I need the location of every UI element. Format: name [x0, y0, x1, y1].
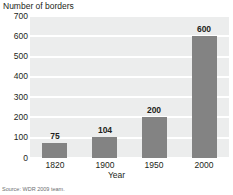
y-axis-tick-label: 600	[2, 32, 28, 41]
bar-value-label: 200	[134, 106, 174, 115]
bar-value-label: 600	[184, 25, 224, 34]
bar	[42, 143, 67, 158]
x-axis-tick-label: 1820	[33, 160, 77, 170]
y-axis-tick-label: 400	[2, 72, 28, 81]
x-axis-tick-label: 1900	[83, 160, 127, 170]
bar	[192, 36, 217, 158]
y-axis-ticks: 7006005004003002001000	[0, 0, 28, 195]
bar-value-label: 104	[85, 126, 125, 135]
y-axis-tick-label: 0	[2, 154, 28, 163]
y-axis-tick-label: 300	[2, 93, 28, 102]
y-axis-tick-label: 700	[2, 12, 28, 21]
bar-chart: Number of borders 7006005004003002001000…	[0, 0, 233, 195]
y-axis-tick-label: 100	[2, 133, 28, 142]
bar-value-label: 75	[35, 132, 75, 141]
x-axis-title: Year	[0, 170, 233, 180]
source-note: Source: WDR 2009 team.	[2, 186, 65, 193]
x-axis-tick-label: 2000	[182, 160, 226, 170]
y-axis-tick-label: 500	[2, 52, 28, 61]
bar	[142, 117, 167, 158]
bar	[92, 137, 117, 158]
y-axis-tick-label: 200	[2, 113, 28, 122]
x-axis-tick-label: 1950	[132, 160, 176, 170]
